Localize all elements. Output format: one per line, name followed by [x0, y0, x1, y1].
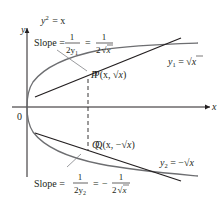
svg-text:1: 1 — [102, 32, 107, 42]
equation-label: y2 = x — [40, 14, 65, 26]
x-axis-label: x — [211, 101, 217, 112]
slope-label-lower: Slope = 1 2y2 = − 1 2√x — [34, 172, 130, 196]
svg-text:Slope =: Slope = — [34, 178, 65, 189]
branch-label-lower: y2 = −√x — [159, 157, 194, 169]
svg-text:2y1: 2y1 — [66, 45, 78, 56]
parabola-diagram: y2 = x y x 0 Slope = 1 2y1 = 1 2√x y1 = … — [0, 0, 222, 205]
point-label-p: PP(x, √x) — [90, 69, 126, 81]
branch-label-upper: y1 = √x — [167, 56, 197, 68]
svg-text:2√x: 2√x — [112, 185, 126, 195]
svg-text:=: = — [93, 178, 99, 189]
y-axis-label: y — [20, 24, 26, 35]
slope-label-upper: Slope = 1 2y1 = 1 2√x — [34, 32, 113, 56]
svg-text:2y2: 2y2 — [74, 185, 86, 196]
svg-text:−: − — [102, 178, 108, 189]
svg-text:=: = — [85, 37, 91, 48]
svg-text:Slope =: Slope = — [34, 37, 65, 48]
svg-text:1: 1 — [70, 32, 75, 42]
svg-text:1: 1 — [119, 172, 124, 182]
point-label-q: QQ(x, −√x) — [92, 139, 135, 151]
origin-label: 0 — [17, 111, 22, 122]
svg-text:1: 1 — [78, 172, 83, 182]
svg-text:2√x: 2√x — [96, 45, 110, 55]
